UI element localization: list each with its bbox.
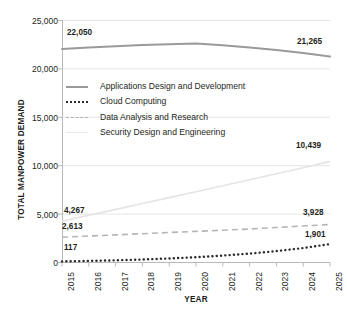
data-label-apps-2025: 21,265 [297, 37, 322, 46]
legend-label: Cloud Computing [100, 96, 166, 106]
legend: Applications Design and Development Clou… [66, 78, 296, 140]
x-tick-label-2017: 2017 [120, 272, 130, 291]
series-line-security-design-and-engineering [62, 161, 330, 221]
legend-label: Data Analysis and Research [100, 112, 208, 122]
y-tick-label-20000: 20,000 [10, 64, 58, 74]
solid-line-icon [66, 81, 88, 91]
x-tick-label-2024: 2024 [307, 272, 317, 291]
data-label-security-2015: 4,267 [64, 206, 85, 215]
y-axis-title: TOTAL MANPOWER DEMAND [17, 80, 26, 240]
x-tick-label-2015: 2015 [66, 272, 76, 291]
line-chart: 25,000 20,000 15,000 10,000 5,000 0 2015… [0, 0, 347, 315]
x-tick-label-2019: 2019 [173, 272, 183, 291]
legend-item-cloud-computing[interactable]: Cloud Computing [66, 94, 296, 110]
series-line-cloud-computing [62, 244, 330, 261]
x-tick-label-2018: 2018 [146, 272, 156, 291]
data-label-apps-2015: 22,050 [67, 28, 92, 37]
dotted-line-icon [66, 96, 88, 106]
data-label-data-2015: 2,613 [62, 222, 83, 231]
x-tick-label-2023: 2023 [280, 272, 290, 291]
legend-item-data-analysis-and-research[interactable]: Data Analysis and Research [66, 109, 296, 125]
legend-item-applications-design-and-development[interactable]: Applications Design and Development [66, 78, 296, 94]
series-line-applications-design-and-development [62, 44, 330, 57]
x-tick-label-2021: 2021 [227, 272, 237, 291]
faint-line-icon [66, 127, 88, 137]
data-label-cloud-2015: 117 [64, 243, 77, 252]
dashed-line-icon [66, 112, 88, 122]
x-tick-label-2016: 2016 [93, 272, 103, 291]
x-tick-marks [62, 263, 330, 267]
legend-label: Security Design and Engineering [100, 127, 225, 137]
series-line-data-analysis-and-research [62, 225, 330, 238]
y-tick-label-0: 0 [10, 258, 58, 268]
y-tick-labels: 25,000 20,000 15,000 10,000 5,000 0 [0, 0, 58, 315]
y-tick-label-25000: 25,000 [10, 16, 58, 26]
x-axis-title: YEAR [62, 295, 330, 304]
legend-item-security-design-and-engineering[interactable]: Security Design and Engineering [66, 125, 296, 141]
legend-label: Applications Design and Development [100, 81, 245, 91]
x-tick-label-2025: 2025 [334, 272, 344, 291]
data-label-data-2025: 3,928 [303, 208, 324, 217]
x-tick-label-2020: 2020 [200, 272, 210, 291]
data-label-cloud-2025: 1,901 [305, 230, 326, 239]
x-tick-label-2022: 2022 [254, 272, 264, 291]
data-label-security-2025: 10,439 [296, 141, 321, 150]
